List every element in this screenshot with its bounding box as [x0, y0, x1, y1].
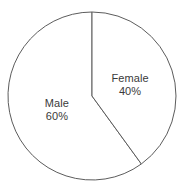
pie-chart: Male 60% Female 40% — [0, 0, 185, 192]
pie-slices — [8, 12, 176, 180]
pie-chart-canvas — [0, 0, 185, 192]
